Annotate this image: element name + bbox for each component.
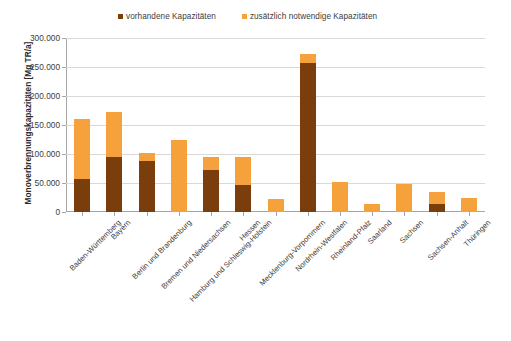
bar-segment-additional[interactable] xyxy=(429,192,445,204)
x-label-slot: Saarland xyxy=(356,212,388,312)
x-label-slot: Nordrhein-Westfalen xyxy=(292,212,324,312)
bar-stack[interactable] xyxy=(332,182,348,212)
bar-group[interactable] xyxy=(259,38,291,212)
x-label-slot: Mecklenburg-Vorpommern xyxy=(259,212,291,312)
x-axis-tick-label: Thüringen xyxy=(462,218,493,249)
bar-group[interactable] xyxy=(324,38,356,212)
bar-chart: vorhandene Kapazitäten zusätzlich notwen… xyxy=(0,0,511,341)
y-axis-tick-label: 250.000 xyxy=(10,62,60,72)
bar-stack[interactable] xyxy=(461,198,477,212)
bar-stack[interactable] xyxy=(106,112,122,212)
bar-segment-existing[interactable] xyxy=(429,204,445,212)
bar-segment-existing[interactable] xyxy=(106,157,122,212)
bar-series-group xyxy=(66,38,485,212)
bar-group[interactable] xyxy=(195,38,227,212)
x-axis-labels: Baden-WürttembergBayernBerlin und Brande… xyxy=(66,212,485,312)
chart-legend: vorhandene Kapazitäten zusätzlich notwen… xyxy=(118,12,377,21)
bar-stack[interactable] xyxy=(171,140,187,213)
x-label-slot: Bayern xyxy=(98,212,130,312)
legend-label-existing: vorhandene Kapazitäten xyxy=(126,12,216,21)
bar-group[interactable] xyxy=(163,38,195,212)
bar-group[interactable] xyxy=(356,38,388,212)
x-label-slot: Hamburg und Schleswig-Holstein xyxy=(195,212,227,312)
bar-segment-additional[interactable] xyxy=(74,119,90,179)
bar-group[interactable] xyxy=(388,38,420,212)
bar-stack[interactable] xyxy=(364,204,380,212)
legend-swatch-additional xyxy=(242,14,247,19)
bar-stack[interactable] xyxy=(235,157,251,212)
bar-segment-existing[interactable] xyxy=(203,170,219,212)
bar-group[interactable] xyxy=(66,38,98,212)
bar-segment-additional[interactable] xyxy=(139,153,155,161)
bar-stack[interactable] xyxy=(300,54,316,212)
bar-stack[interactable] xyxy=(203,157,219,212)
bar-segment-additional[interactable] xyxy=(332,182,348,212)
bar-segment-existing[interactable] xyxy=(139,161,155,212)
legend-item-additional: zusätzlich notwendige Kapazitäten xyxy=(242,12,377,21)
y-axis-tick-label: 100.000 xyxy=(10,149,60,159)
bar-stack[interactable] xyxy=(74,119,90,212)
bar-segment-additional[interactable] xyxy=(203,157,219,170)
bar-group[interactable] xyxy=(130,38,162,212)
bar-stack[interactable] xyxy=(429,192,445,212)
bar-stack[interactable] xyxy=(139,153,155,212)
x-label-slot: Berlin und Brandenburg xyxy=(130,212,162,312)
x-label-slot: Thüringen xyxy=(453,212,485,312)
bar-segment-existing[interactable] xyxy=(74,179,90,212)
plot-area: 300.000250.000200.000150.000100.00050.00… xyxy=(66,38,485,212)
bar-segment-additional[interactable] xyxy=(364,204,380,212)
legend-item-existing: vorhandene Kapazitäten xyxy=(118,12,216,21)
bar-segment-additional[interactable] xyxy=(300,54,316,63)
y-axis-tick-label: 150.000 xyxy=(10,120,60,130)
bar-group[interactable] xyxy=(453,38,485,212)
legend-label-additional: zusätzlich notwendige Kapazitäten xyxy=(250,12,377,21)
bar-stack[interactable] xyxy=(396,184,412,212)
bar-segment-additional[interactable] xyxy=(461,198,477,212)
x-label-slot: Baden-Württemberg xyxy=(66,212,98,312)
bar-group[interactable] xyxy=(292,38,324,212)
x-label-slot: Sachsen-Anhalt xyxy=(421,212,453,312)
bar-segment-additional[interactable] xyxy=(106,112,122,157)
legend-swatch-existing xyxy=(118,14,123,19)
y-axis-tick-label: 0 xyxy=(10,207,60,217)
bar-segment-existing[interactable] xyxy=(235,185,251,212)
bar-segment-additional[interactable] xyxy=(396,184,412,212)
y-axis-tick-label: 300.000 xyxy=(10,33,60,43)
bar-stack[interactable] xyxy=(268,199,284,212)
bar-segment-additional[interactable] xyxy=(268,199,284,212)
x-label-slot: Rheinland-Pfalz xyxy=(324,212,356,312)
x-label-slot: Hessen xyxy=(227,212,259,312)
bar-group[interactable] xyxy=(421,38,453,212)
x-axis-tick-label: Bayern xyxy=(109,218,132,241)
bar-segment-additional[interactable] xyxy=(235,157,251,185)
bar-group[interactable] xyxy=(227,38,259,212)
bar-group[interactable] xyxy=(98,38,130,212)
y-axis-tick-label: 200.000 xyxy=(10,91,60,101)
bar-segment-additional[interactable] xyxy=(171,140,187,213)
bar-segment-existing[interactable] xyxy=(300,63,316,212)
x-label-slot: Sachsen xyxy=(388,212,420,312)
y-axis-tick-label: 50.000 xyxy=(10,178,60,188)
